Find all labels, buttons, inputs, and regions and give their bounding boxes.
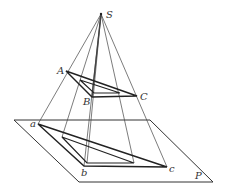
label-a: a <box>30 119 36 129</box>
label-c: c <box>169 164 175 174</box>
label-B: B <box>83 97 90 107</box>
label-S: S <box>106 10 113 20</box>
triangle-abc-inner <box>62 137 134 163</box>
label-b: b <box>81 168 87 178</box>
triangle-abc <box>38 124 167 167</box>
label-A: A <box>57 66 64 76</box>
ray-s-a <box>38 14 101 124</box>
point-s <box>100 13 102 15</box>
label-C: C <box>140 92 148 102</box>
projection-diagram: S A B C a b c P <box>0 0 226 195</box>
diagram-canvas <box>0 0 226 195</box>
label-P: P <box>195 171 202 181</box>
